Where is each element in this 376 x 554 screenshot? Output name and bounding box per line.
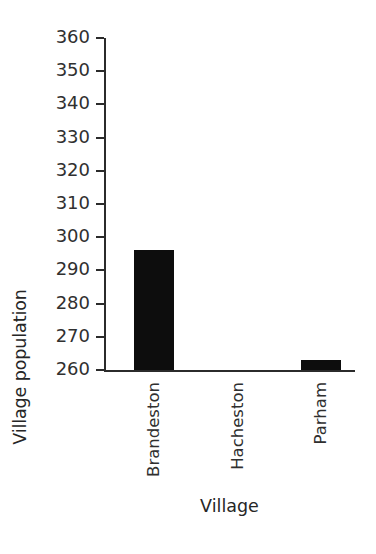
bar [301,360,341,370]
x-axis-title: Village [104,496,355,516]
bar-chart-figure: Village population 260270280290300310320… [0,0,376,554]
y-axis-tick [96,269,104,271]
y-axis-tick-label-text: 360 [28,28,90,46]
y-axis-tick [96,303,104,305]
y-axis-tick-label-text: 260 [28,360,90,378]
x-axis-category-label-text: Parham [310,382,332,542]
y-axis-tick [96,37,104,39]
y-axis-tick-label-text: 350 [28,61,90,79]
y-axis-tick-label-text: 330 [28,128,90,146]
plot-area [104,38,355,372]
y-axis-tick [96,103,104,105]
y-axis-tick [96,336,104,338]
y-axis-tick [96,70,104,72]
x-axis-category-label-text: Hacheston [227,382,249,542]
y-axis-tick-label-text: 270 [28,327,90,345]
y-axis-tick-label-text: 340 [28,94,90,112]
y-axis-tick [96,137,104,139]
y-axis-tick [96,203,104,205]
y-axis-tick-label-text: 280 [28,294,90,312]
bar [134,250,174,370]
y-axis-line [104,38,106,372]
y-axis-tick-label-text: 300 [28,227,90,245]
y-axis-tick [96,236,104,238]
y-axis-title-text: Village population [10,289,30,445]
x-axis-category-label-text: Brandeston [143,382,165,542]
y-axis-tick [96,369,104,371]
x-axis-line [104,370,355,372]
y-axis-tick-label-text: 320 [28,161,90,179]
y-axis-tick [96,170,104,172]
y-axis-tick-label-text: 310 [28,194,90,212]
y-axis-tick-label-text: 290 [28,260,90,278]
